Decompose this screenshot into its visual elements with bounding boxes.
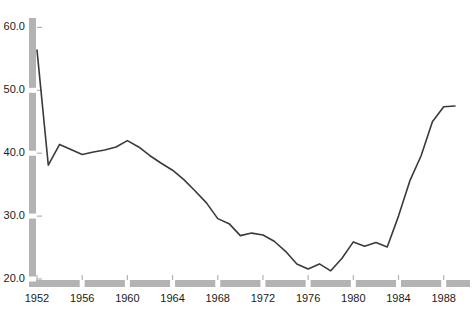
chart-plot-area (0, 0, 474, 313)
line-chart: 20.030.040.050.060.0 1952195619601964196… (0, 0, 474, 313)
axis-tick-marks (36, 27, 444, 280)
y-axis-line (29, 18, 36, 287)
data-series-line (37, 50, 455, 271)
x-axis-line (36, 280, 470, 287)
